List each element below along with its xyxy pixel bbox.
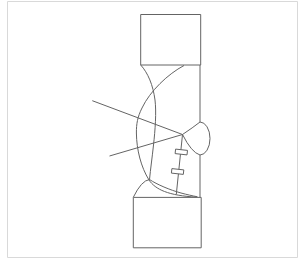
measure-tick-2 [171, 169, 183, 175]
bottom-fillet [133, 180, 149, 198]
pressure-line-lower [110, 135, 183, 157]
bump-arc [200, 122, 210, 155]
pressure-line-upper [92, 101, 182, 135]
arc-right [141, 65, 156, 180]
top-flange-rect [141, 15, 201, 66]
bottom-flange-rect [133, 197, 201, 247]
measure-tick-1 [175, 149, 187, 155]
diagram-canvas [0, 0, 301, 265]
measure-line [176, 135, 182, 195]
drawing-page [0, 0, 301, 265]
